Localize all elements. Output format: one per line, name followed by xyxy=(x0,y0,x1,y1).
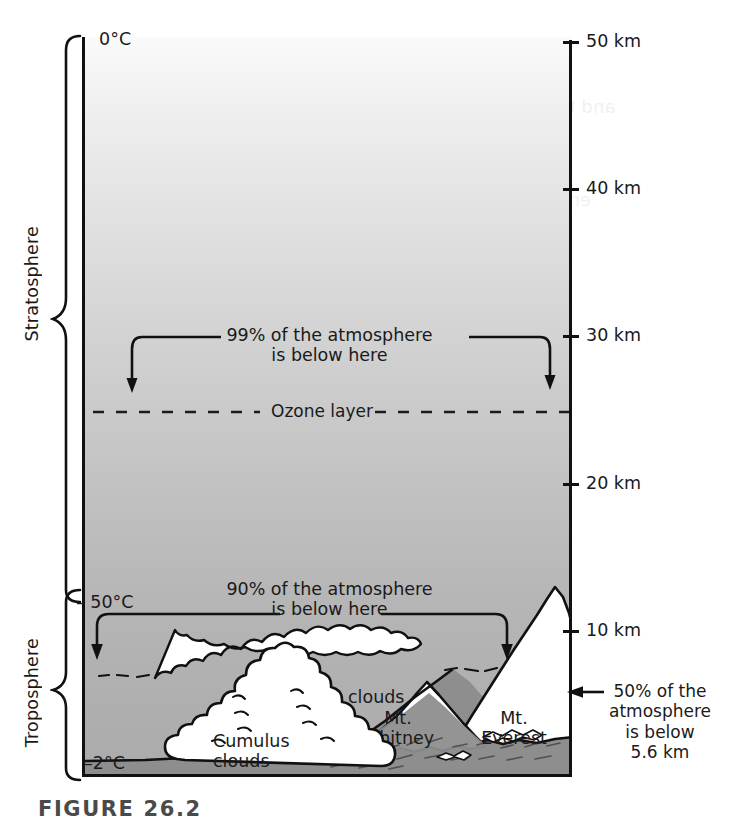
troposphere-label: Troposphere xyxy=(22,638,42,747)
axis-tick-label-10: 10 km xyxy=(586,620,641,640)
cumulus-clouds-label-line1: Cumulus xyxy=(213,732,290,752)
callout-50-line1: 50% of the xyxy=(600,681,720,701)
cumulus-clouds-label-line2: clouds xyxy=(213,752,290,772)
temp-label-surface: –2°C xyxy=(84,753,125,773)
cumulus-clouds-label: Cumulus clouds xyxy=(213,732,290,771)
altitude-axis xyxy=(569,40,572,777)
troposphere-brace xyxy=(50,588,84,784)
callout-50-line4: 5.6 km xyxy=(600,742,720,762)
stratosphere-brace xyxy=(50,34,84,604)
axis-tick-10 xyxy=(563,630,579,633)
axis-tick-40 xyxy=(563,188,579,191)
callout-50-line2: atmosphere xyxy=(600,701,720,721)
axis-tick-30 xyxy=(563,335,579,338)
temp-label-tropopause: – 50°C xyxy=(76,592,134,612)
axis-tick-50 xyxy=(563,41,579,44)
stratosphere-label: Stratosphere xyxy=(22,226,42,342)
axis-tick-20 xyxy=(563,483,579,486)
callout-50-text: 50% of the atmosphere is below 5.6 km xyxy=(600,681,720,763)
atmosphere-plot-area: 99% of the atmosphere is below here Ozon… xyxy=(82,37,571,777)
axis-tick-label-30: 30 km xyxy=(586,325,641,345)
callout-50-line3: is below xyxy=(600,722,720,742)
axis-tick-label-40: 40 km xyxy=(586,178,641,198)
temp-label-top: 0°C xyxy=(99,29,131,49)
axis-tick-label-20: 20 km xyxy=(586,473,641,493)
figure-caption: FIGURE 26.2 xyxy=(38,797,202,819)
axis-tick-label-50: 50 km xyxy=(586,31,641,51)
atmosphere-figure: and the composition of the atmosphere ly… xyxy=(0,0,730,819)
cumulus-cloud-graphic xyxy=(85,37,571,777)
